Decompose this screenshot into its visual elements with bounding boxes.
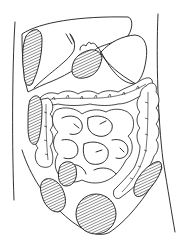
suprapubic-region xyxy=(76,194,116,234)
abdominal-anatomy-diagram xyxy=(0,0,185,245)
right-iliac-region-upper xyxy=(58,162,76,186)
